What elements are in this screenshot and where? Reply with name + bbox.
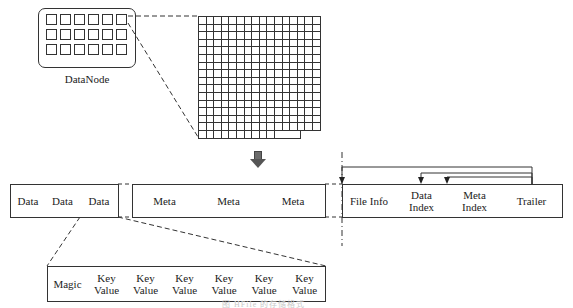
file-info-block: File Info xyxy=(342,184,396,218)
data-block-3: Data xyxy=(80,184,119,218)
data-index-block: Data Index xyxy=(395,184,449,218)
key-value-cell: KeyValue xyxy=(244,266,285,302)
trailer-block: Trailer xyxy=(501,184,563,218)
meta-index-block: Meta Index xyxy=(448,184,502,218)
key-value-cell: KeyValue xyxy=(165,266,205,302)
connector-lines xyxy=(0,0,573,308)
meta-block-2: Meta xyxy=(196,184,262,218)
meta-block-1: Meta xyxy=(132,184,197,218)
meta-block-3: Meta xyxy=(261,184,326,218)
data-block-2: Data xyxy=(45,184,81,218)
key-value-cell: KeyValue xyxy=(126,266,166,302)
key-value-cell: KeyValue xyxy=(204,266,245,302)
magic-cell: Magic xyxy=(47,266,88,302)
key-value-cell: KeyValue xyxy=(87,266,127,302)
data-block-1: Data xyxy=(10,184,46,218)
figure-caption: 图 HFile 的存储格式 xyxy=(222,298,305,308)
down-arrow-icon xyxy=(250,151,266,168)
key-value-cell: KeyValue xyxy=(284,266,326,302)
